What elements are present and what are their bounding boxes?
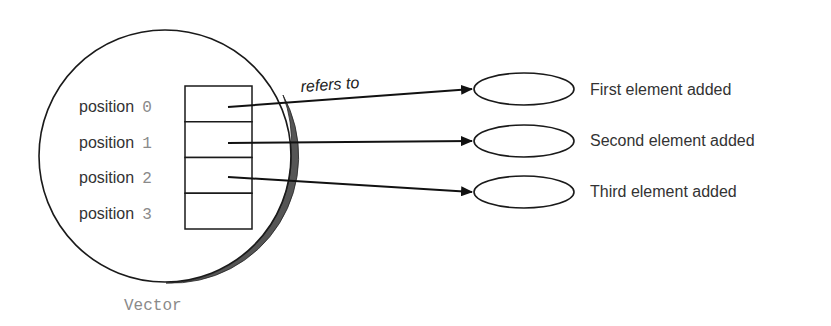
vector-label: Vector xyxy=(124,297,182,315)
position-label-2: position2 xyxy=(79,169,152,188)
element-0 xyxy=(474,73,574,105)
position-label-0: position0 xyxy=(79,98,152,117)
vector-circle xyxy=(39,30,299,283)
circle-outline xyxy=(39,30,291,282)
element-1 xyxy=(474,125,574,157)
reference-arrows xyxy=(228,89,472,192)
position-labels: position0 position1 position2 position3 xyxy=(79,98,152,224)
slot-3 xyxy=(185,193,252,229)
vector-diagram: position0 position1 position2 position3 … xyxy=(0,0,831,326)
element-ellipses xyxy=(474,73,574,208)
element-2 xyxy=(474,176,574,208)
position-label-3: position3 xyxy=(79,205,152,224)
slot-1 xyxy=(185,122,252,158)
element-label-2: Third element added xyxy=(590,183,737,200)
refers-to-label: refers to xyxy=(300,74,360,95)
arrow-0 xyxy=(228,89,472,107)
element-label-1: Second element added xyxy=(590,132,755,149)
position-label-1: position1 xyxy=(79,134,152,153)
slot-2 xyxy=(185,158,252,194)
slot-0 xyxy=(185,86,252,122)
element-labels: First element added Second element added… xyxy=(590,81,755,200)
slot-box xyxy=(185,86,252,229)
arrow-1 xyxy=(228,141,472,143)
arrow-2 xyxy=(228,177,472,192)
element-label-0: First element added xyxy=(590,81,731,98)
